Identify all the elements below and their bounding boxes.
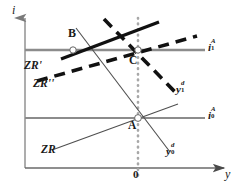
vertical-axis-label: i — [12, 4, 15, 16]
zr-label: ZR — [41, 144, 56, 156]
origin-tick-label: 0 — [133, 169, 139, 180]
i0A-sub: 0 — [211, 113, 214, 120]
point-label-b: B — [68, 27, 76, 39]
yd0-label: yd0 — [166, 144, 176, 157]
diagram-canvas — [0, 0, 238, 190]
point-label-c: C — [129, 55, 137, 67]
zr-prime-label: ZR' — [24, 60, 42, 72]
equilibrium-point-b — [70, 47, 76, 53]
interest-rate-label-i0A: iA0 — [208, 108, 216, 121]
yd0-sub: 0 — [171, 149, 174, 156]
point-label-a: A — [128, 120, 136, 132]
interest-rate-label-i1A: iA1 — [208, 40, 216, 53]
zr-double-prime-label: ZR'' — [33, 78, 54, 90]
yd1-sub: 1 — [181, 87, 184, 94]
yd1-label: yd1 — [176, 82, 186, 95]
i1A-sub: 1 — [211, 45, 214, 52]
economics-diagram: i y 0 iA1 iA0 ZR' ZR'' ZR yd1 yd0 B C A — [0, 0, 238, 190]
horizontal-axis-label: y — [225, 168, 230, 180]
equilibrium-point-c — [135, 47, 141, 53]
zr-curve — [52, 104, 178, 150]
